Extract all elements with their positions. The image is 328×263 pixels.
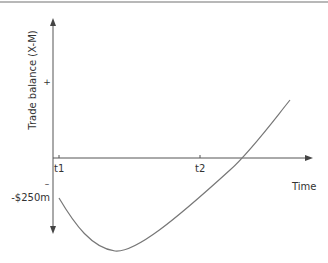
j-curve-line (59, 100, 290, 251)
j-curve-diagram: Trade balance (X-M) + – -$250m t1 t2 Tim… (0, 0, 328, 263)
y-axis-title: Trade balance (X-M) (27, 30, 38, 131)
minus-marker: – (45, 179, 50, 189)
t1-label: t1 (54, 163, 64, 174)
t2-label: t2 (195, 163, 205, 174)
plus-marker: + (43, 77, 51, 87)
diagram-svg: Trade balance (X-M) + – -$250m t1 t2 Tim… (0, 0, 328, 263)
start-value-label: -$250m (11, 192, 50, 203)
x-axis-title: Time (291, 181, 316, 192)
